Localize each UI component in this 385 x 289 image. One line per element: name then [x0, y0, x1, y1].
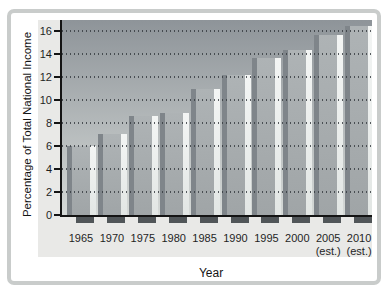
bar-base-shadow [169, 217, 187, 223]
bar-right-highlight [152, 116, 158, 215]
bar [196, 89, 214, 215]
bar-base-shadow [138, 217, 156, 223]
bar-right-highlight [214, 89, 220, 215]
bar-base-shadow [292, 217, 310, 223]
gridline [62, 122, 372, 124]
x-tick-label: 2010 [337, 232, 381, 244]
bar-base-shadow [200, 217, 218, 223]
gridline [62, 53, 372, 55]
plot-area [62, 20, 372, 215]
figure-frame: 0246810121416196519701975198019851990199… [7, 9, 381, 285]
bar-base-shadow [354, 217, 372, 223]
bar-base-shadow [261, 217, 279, 223]
gridline [62, 30, 372, 32]
y-axis-line [60, 20, 62, 217]
gridline [62, 76, 372, 78]
bar-base-shadow [76, 217, 94, 223]
gridline [62, 168, 372, 170]
bar [319, 35, 337, 215]
bar-base-shadow [323, 217, 341, 223]
x-axis-line [60, 215, 372, 217]
gridline [62, 191, 372, 193]
bar-base-shadow [107, 217, 125, 223]
bar [134, 116, 152, 215]
bar-right-highlight [337, 35, 343, 215]
gridline [62, 99, 372, 101]
x-tick-note: (est.) [337, 245, 381, 257]
gridline [62, 145, 372, 147]
bar-right-highlight [183, 113, 189, 215]
bar [165, 113, 183, 215]
bar [72, 146, 90, 215]
bar-right-highlight [90, 146, 96, 215]
x-axis-title: Year [131, 266, 291, 280]
bar-base-shadow [231, 217, 249, 223]
y-axis-title: Percentage of Total National Income [21, 15, 36, 235]
